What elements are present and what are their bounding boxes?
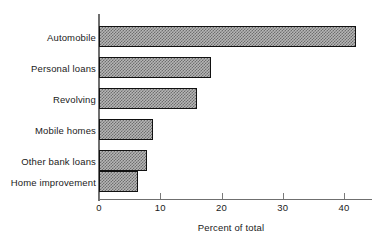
x-tick-20 [222, 193, 223, 199]
bar-mobile-homes [99, 119, 153, 140]
x-tick-label-10: 10 [155, 202, 166, 213]
category-label-mobile-homes: Mobile homes [35, 125, 96, 136]
category-label-revolving: Revolving [53, 94, 96, 105]
category-label-home-improvement: Home improvement [11, 177, 96, 188]
bar-personal-loans [99, 57, 211, 78]
x-tick-label-20: 20 [216, 202, 227, 213]
x-axis-line [99, 199, 372, 200]
bar-automobile [99, 26, 356, 47]
bar-revolving [99, 88, 197, 109]
x-tick-30 [283, 193, 284, 199]
bar-other-bank-loans [99, 150, 147, 171]
x-tick-label-40: 40 [339, 202, 350, 213]
x-tick-10 [160, 193, 161, 199]
x-axis-title-text: Percent of total [198, 222, 264, 233]
x-tick-0 [99, 193, 100, 199]
category-label-other-bank-loans: Other bank loans [21, 156, 96, 167]
x-tick-label-30: 30 [277, 202, 288, 213]
bar-home-improvement [99, 171, 138, 192]
x-tick-40 [344, 193, 345, 199]
x-axis-title: Percent of total [0, 222, 388, 233]
category-label-automobile: Automobile [47, 32, 96, 43]
category-label-personal-loans: Personal loans [31, 63, 96, 74]
bar-chart: 010203040 AutomobilePersonal loansRevolv… [0, 0, 388, 242]
x-tick-label-0: 0 [96, 202, 101, 213]
